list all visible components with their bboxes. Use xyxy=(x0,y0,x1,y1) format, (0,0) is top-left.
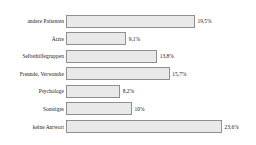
bar-row: Selbsthilfegruppen 13,8% xyxy=(0,48,256,64)
bar-row: Ärzte 9,1% xyxy=(0,31,256,47)
value-label: 10% xyxy=(135,106,145,112)
bar-keine-antwort xyxy=(66,120,222,133)
category-label: Selbsthilfegruppen xyxy=(0,53,66,59)
bar-row: andere Patienten 19,5% xyxy=(0,13,256,29)
bar-chart: andere Patienten 19,5% Ärzte 9,1% Selbst… xyxy=(0,0,256,145)
bar-track: 8,2% xyxy=(66,85,256,98)
value-label: 13,8% xyxy=(160,53,174,59)
bar-track: 10% xyxy=(66,102,256,115)
bar-row: Psychologe 8,2% xyxy=(0,83,256,99)
bar-row: Sonstiges 10% xyxy=(0,101,256,117)
bar-rows: andere Patienten 19,5% Ärzte 9,1% Selbst… xyxy=(0,13,256,136)
bar-sonstiges xyxy=(66,102,132,115)
bar-track: 15,7% xyxy=(66,67,256,80)
bar-row: keine Antwort 23,6% xyxy=(0,119,256,135)
bar-row: Freunde, Verwandte 15,7% xyxy=(0,66,256,82)
value-label: 23,6% xyxy=(225,124,239,130)
bar-freunde-verwandte xyxy=(66,67,170,80)
category-label: andere Patienten xyxy=(0,18,66,24)
category-label: Psychologe xyxy=(0,88,66,94)
bar-andere-patienten xyxy=(66,15,195,28)
category-label: Sonstiges xyxy=(0,106,66,112)
value-label: 19,5% xyxy=(197,18,211,24)
value-label: 9,1% xyxy=(129,36,140,42)
bar-track: 13,8% xyxy=(66,50,256,63)
value-label: 15,7% xyxy=(172,71,186,77)
bar-track: 23,6% xyxy=(66,120,256,133)
bar-aerzte xyxy=(66,32,126,45)
bar-psychologe xyxy=(66,85,120,98)
bar-track: 9,1% xyxy=(66,32,256,45)
category-label: Ärzte xyxy=(0,36,66,42)
category-label: keine Antwort xyxy=(0,124,66,130)
category-label: Freunde, Verwandte xyxy=(0,71,66,77)
bar-selbsthilfegruppen xyxy=(66,50,157,63)
value-label: 8,2% xyxy=(123,88,134,94)
bar-track: 19,5% xyxy=(66,15,256,28)
